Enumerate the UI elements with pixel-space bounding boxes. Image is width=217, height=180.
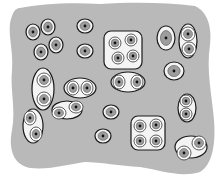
nucleus: [84, 50, 87, 53]
nucleus: [35, 133, 38, 136]
nucleus: [132, 55, 135, 58]
nucleus: [185, 113, 188, 116]
pair-cell-group: [64, 78, 96, 98]
quad-cell-group: [104, 31, 142, 69]
single-cell-group: [26, 24, 40, 40]
nucleus: [136, 81, 139, 84]
nucleus: [102, 135, 105, 138]
single-cell-group: [103, 105, 119, 119]
cell-diagram: [0, 0, 217, 180]
pair-cell-group: [111, 72, 145, 92]
pair-cell-group: [52, 101, 83, 119]
nucleus: [165, 37, 168, 40]
single-cell-group: [77, 44, 93, 58]
nucleus: [139, 125, 142, 128]
nucleus: [40, 51, 43, 54]
single-cell-group: [164, 62, 184, 80]
pair-cell-group: [23, 109, 43, 143]
single-cell-group: [49, 37, 63, 53]
nucleus: [155, 124, 158, 127]
single-cell-group: [157, 26, 175, 50]
nucleus: [183, 152, 186, 155]
nucleus: [173, 70, 176, 73]
pair-cell-group: [179, 24, 197, 58]
nucleus: [86, 87, 89, 90]
pair-cell-group: [32, 68, 54, 110]
nucleus: [43, 79, 46, 82]
nucleus: [75, 106, 78, 109]
nucleus: [130, 39, 133, 42]
single-cell-group: [41, 19, 55, 35]
nucleus: [198, 142, 201, 145]
nucleus: [84, 25, 87, 28]
nucleus: [187, 33, 190, 36]
single-cell-group: [95, 129, 111, 143]
nucleus: [43, 98, 46, 101]
nucleus: [114, 42, 117, 45]
nucleus: [155, 140, 158, 143]
single-cell-group: [77, 19, 93, 33]
nucleus: [110, 111, 113, 114]
nucleus: [32, 31, 35, 34]
nucleus: [185, 100, 188, 103]
nucleus: [117, 57, 120, 60]
nucleus: [58, 112, 61, 115]
nucleus: [188, 48, 191, 51]
quad-cell-group: [131, 116, 165, 150]
nucleus: [47, 26, 50, 29]
nucleus: [72, 87, 75, 90]
single-cell-group: [34, 44, 48, 60]
nucleus: [29, 117, 32, 120]
nucleus: [55, 44, 58, 47]
nucleus: [139, 140, 142, 143]
pair-cell-group: [178, 94, 196, 122]
nucleus: [118, 81, 121, 84]
